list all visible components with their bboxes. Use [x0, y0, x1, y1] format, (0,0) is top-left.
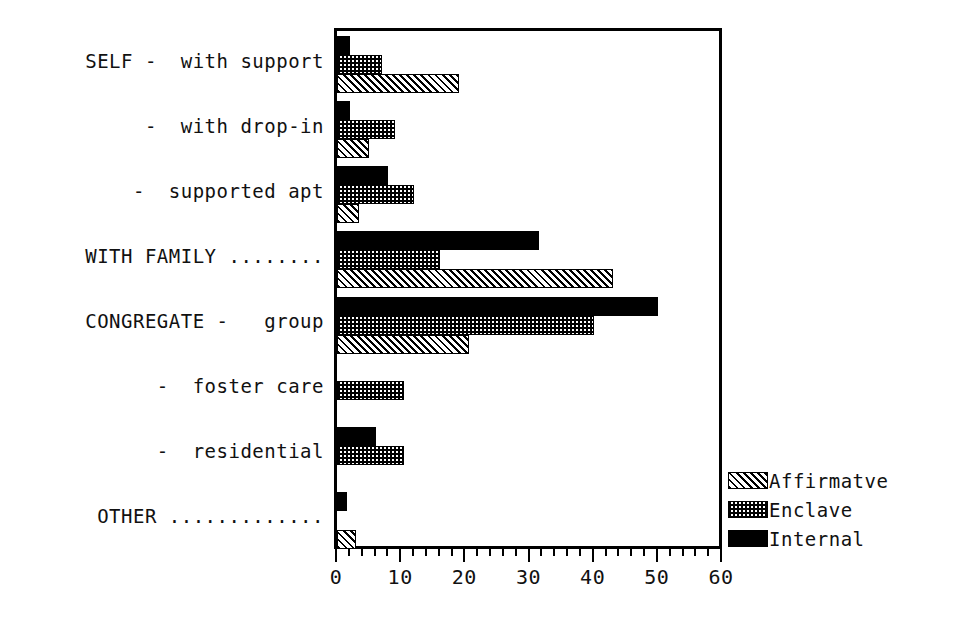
x-tick-label: 40 — [580, 565, 605, 589]
bar-enclave-1 — [337, 120, 395, 139]
category-label: WITH FAMILY ........ — [85, 247, 324, 266]
x-tick-major — [528, 549, 530, 562]
x-tick-major — [463, 549, 465, 562]
bar-enclave-5 — [337, 381, 404, 400]
x-tick-minor — [605, 549, 607, 556]
x-tick-minor — [566, 549, 568, 556]
legend-swatch-affirmative-icon — [728, 472, 768, 489]
category-label: - residential — [157, 442, 324, 461]
x-tick-minor — [386, 549, 388, 556]
bar-enclave-2 — [337, 185, 414, 204]
bar-internal-0 — [337, 36, 350, 55]
bar-internal-7 — [337, 492, 347, 511]
x-tick-label: 50 — [644, 565, 669, 589]
bar-internal-2 — [337, 166, 388, 185]
legend-item-internal[interactable]: Internal — [728, 524, 958, 553]
bar-enclave-0 — [337, 55, 382, 74]
legend-item-enclave[interactable]: Enclave — [728, 495, 958, 524]
x-tick-minor — [643, 549, 645, 556]
x-tick-minor — [682, 549, 684, 556]
bar-enclave-3 — [337, 250, 440, 269]
legend-item-affirmative[interactable]: Affirmatve — [728, 466, 958, 495]
x-tick-major — [720, 549, 722, 562]
x-tick-major — [656, 549, 658, 562]
x-tick-minor — [476, 549, 478, 556]
x-tick-minor — [669, 549, 671, 556]
x-tick-major — [335, 549, 337, 562]
bar-affirmatve-7 — [337, 530, 356, 549]
plot-area — [337, 31, 719, 546]
x-tick-minor — [579, 549, 581, 556]
bar-affirmatve-3 — [337, 269, 613, 288]
x-tick-minor — [451, 549, 453, 556]
x-tick-minor — [515, 549, 517, 556]
bar-enclave-4 — [337, 316, 594, 335]
x-tick-minor — [553, 549, 555, 556]
category-label: - supported apt — [133, 182, 324, 201]
x-tick-minor — [361, 549, 363, 556]
legend-label: Affirmatve — [769, 470, 888, 492]
bar-chart: SELF - with support- with drop-in- suppo… — [0, 0, 959, 633]
legend-swatch-internal-icon — [728, 530, 768, 547]
category-label: OTHER ............. — [97, 507, 324, 526]
category-label: - with drop-in — [145, 117, 324, 136]
x-tick-minor — [412, 549, 414, 556]
bar-internal-4 — [337, 297, 658, 316]
x-tick-minor — [374, 549, 376, 556]
category-label: CONGREGATE - group — [85, 312, 324, 331]
x-tick-label: 0 — [330, 565, 343, 589]
bar-internal-1 — [337, 101, 350, 120]
x-tick-minor — [707, 549, 709, 556]
x-tick-minor — [348, 549, 350, 556]
x-tick-label: 30 — [516, 565, 541, 589]
x-tick-minor — [540, 549, 542, 556]
x-tick-minor — [630, 549, 632, 556]
bar-internal-6 — [337, 427, 376, 446]
x-tick-minor — [489, 549, 491, 556]
x-tick-minor — [425, 549, 427, 556]
bar-affirmatve-4 — [337, 335, 469, 354]
legend-label: Internal — [769, 528, 865, 550]
bar-affirmatve-2 — [337, 204, 359, 223]
bar-enclave-6 — [337, 446, 404, 465]
x-tick-label: 10 — [388, 565, 413, 589]
x-tick-minor — [438, 549, 440, 556]
x-tick-minor — [617, 549, 619, 556]
bar-internal-3 — [337, 231, 539, 250]
category-label: - foster care — [157, 377, 324, 396]
x-axis: 0102030405060 — [334, 549, 722, 609]
x-tick-minor — [694, 549, 696, 556]
chart-legend: AffirmatveEnclaveInternal — [728, 466, 958, 553]
x-tick-label: 20 — [452, 565, 477, 589]
legend-swatch-enclave-icon — [728, 501, 768, 518]
bar-affirmatve-0 — [337, 74, 459, 93]
category-axis-labels: SELF - with support- with drop-in- suppo… — [0, 28, 330, 549]
bar-affirmatve-1 — [337, 139, 369, 158]
legend-label: Enclave — [769, 499, 853, 521]
x-tick-label: 60 — [708, 565, 733, 589]
category-label: SELF - with support — [85, 52, 324, 71]
x-tick-major — [399, 549, 401, 562]
plot-frame — [334, 28, 722, 549]
x-tick-major — [592, 549, 594, 562]
x-tick-minor — [502, 549, 504, 556]
